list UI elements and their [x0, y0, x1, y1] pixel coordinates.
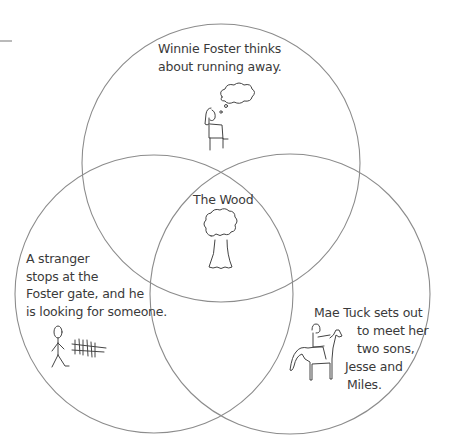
region-right-line-5: Miles. — [347, 376, 382, 394]
region-top-line-2: about running away. — [158, 58, 282, 76]
region-left-line-2: stops at the — [26, 268, 167, 286]
region-right-line-3: two sons, — [357, 340, 415, 358]
woman-on-horse-icon — [290, 324, 342, 380]
region-top-label: Winnie Foster thinks about running away. — [158, 40, 282, 75]
region-right-line-1: Mae Tuck sets out — [314, 304, 423, 322]
region-top-line-1: Winnie Foster thinks — [158, 40, 282, 58]
region-center-line-1: The Wood — [193, 191, 253, 209]
tree-icon — [204, 209, 237, 269]
region-left-line-1: A stranger — [26, 250, 167, 268]
region-left-line-4: is looking for someone. — [26, 303, 167, 321]
region-left-label: A stranger stops at the Foster gate, and… — [26, 250, 167, 320]
region-right-line-4: Jesse and — [345, 358, 403, 376]
region-right-line-2: to meet her — [357, 322, 429, 340]
region-center-label: The Wood — [193, 191, 253, 209]
circle-right — [150, 154, 430, 434]
stick-figure-at-gate-icon — [52, 326, 106, 367]
girl-sitting-thinking-icon — [205, 83, 255, 150]
region-left-line-3: Foster gate, and he — [26, 285, 167, 303]
